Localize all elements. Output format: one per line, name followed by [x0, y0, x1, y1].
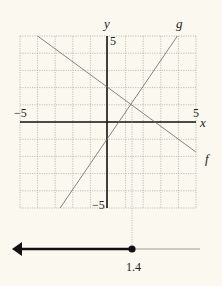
g-label: g [176, 16, 183, 31]
f-label: f [205, 151, 211, 166]
arrow-left-icon [12, 242, 22, 256]
x-max-label: 5 [193, 106, 199, 120]
solution-label: 1.4 [126, 260, 141, 274]
x-min-label: −5 [14, 106, 27, 120]
y-max-label: 5 [110, 34, 116, 48]
y-min-label: −5 [92, 198, 105, 212]
x-axis-label: x [199, 115, 206, 130]
closed-point [128, 245, 135, 252]
y-axis-label: y [102, 16, 110, 31]
graph-figure: y x 5 −5 −5 5 g f 1.4 [0, 0, 222, 286]
